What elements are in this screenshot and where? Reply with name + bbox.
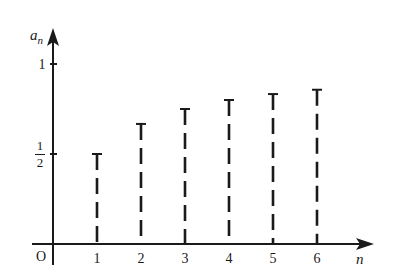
- bars: [92, 90, 322, 244]
- x-tick-label: 5: [270, 251, 277, 266]
- x-tick-label: 1: [94, 251, 101, 266]
- y-tick-label: 1: [39, 57, 46, 72]
- x-tick-labels: 123456: [94, 251, 321, 266]
- origin-label: O: [36, 249, 46, 264]
- x-tick-label: 3: [182, 251, 189, 266]
- bar-segment: [136, 124, 146, 244]
- x-tick-label: 2: [138, 251, 145, 266]
- y-axis-label: an: [30, 27, 44, 46]
- x-tick-label: 4: [226, 251, 233, 266]
- y-tick-label-numerator: 1: [37, 138, 44, 153]
- sequence-chart: an n O 121 123456: [0, 0, 396, 275]
- x-axis-label: n: [356, 251, 364, 267]
- y-tick-label-denominator: 2: [37, 155, 44, 170]
- bar-segment: [268, 94, 278, 244]
- bar-segment: [224, 100, 234, 244]
- axes: [32, 28, 374, 265]
- bar-segment: [92, 154, 102, 244]
- x-tick-label: 6: [314, 251, 321, 266]
- bar-segment: [312, 90, 322, 244]
- bar-segment: [180, 109, 190, 244]
